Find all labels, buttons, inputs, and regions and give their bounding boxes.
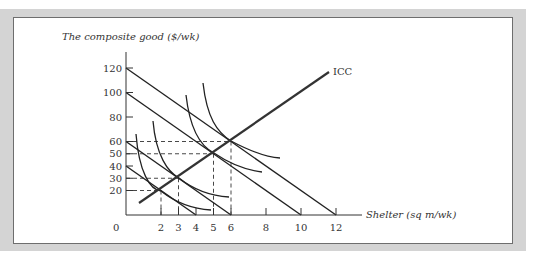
x-tick-label: 3 (175, 222, 181, 233)
y-axis-title: The composite good ($/wk) (62, 31, 199, 42)
icc-line (139, 72, 329, 203)
y-tick-label: 50 (109, 148, 122, 159)
y-tick-label: 20 (109, 185, 122, 196)
y-tick-label: 30 (109, 173, 122, 184)
x-tick-label: 8 (263, 222, 269, 233)
origin-label: 0 (113, 222, 119, 233)
y-tick-label: 60 (109, 136, 122, 147)
y-tick-label: 120 (103, 63, 122, 74)
y-tick-label: 80 (109, 112, 122, 123)
x-tick-label: 6 (228, 222, 234, 233)
icc-label: ICC (333, 66, 353, 77)
indifference-curve (203, 83, 280, 158)
x-tick-label: 12 (330, 222, 343, 233)
x-tick-label: 2 (158, 222, 164, 233)
y-tick-label: 40 (109, 161, 122, 172)
x-tick-label: 10 (295, 222, 308, 233)
x-axis-title: Shelter (sq m/wk) (366, 209, 456, 220)
x-tick-label: 5 (210, 222, 216, 233)
icc-curve (139, 72, 329, 203)
chart-canvas: The composite good ($/wk) 20304050608010… (0, 0, 537, 258)
x-tick-label: 4 (193, 222, 199, 233)
y-tick-label: 100 (103, 87, 122, 98)
